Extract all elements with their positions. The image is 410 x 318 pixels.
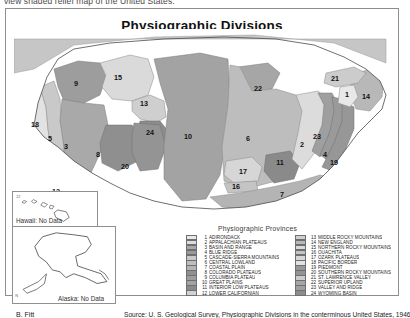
- map-region-number: 15: [114, 73, 122, 82]
- map-region-number: 5: [48, 134, 52, 143]
- map-region-number: 21: [331, 74, 339, 83]
- map-region-number: 16: [232, 182, 240, 191]
- legend-item-label: WYOMING BASIN: [318, 291, 357, 296]
- author-credit: B. Fitt: [16, 311, 34, 318]
- map-region-number: 10: [184, 132, 192, 141]
- region-northern-rockies: [100, 55, 154, 101]
- map-region-number: 4: [323, 150, 327, 159]
- map-region-number: 22: [254, 84, 262, 93]
- inset-alaska-caption: Alaska: No Data: [58, 295, 104, 302]
- map-region-number: 6: [246, 134, 250, 143]
- svg-text:N: N: [15, 293, 18, 298]
- map-region-number: 7: [280, 190, 284, 199]
- legend-columns: 1ADIRONDACK2APPALACHIAN PLATEAUS3BASIN A…: [186, 235, 398, 296]
- alaska-outline: N: [13, 227, 115, 303]
- map-region-number: 17: [239, 167, 247, 176]
- map-region-number: 11: [276, 158, 284, 167]
- map-region-number: 14: [362, 92, 370, 101]
- source-citation: Source: U. S. Geological Survey, Physiog…: [124, 311, 410, 318]
- legend-item-number: 12: [199, 291, 207, 296]
- map-figure: Physiographic Divisions: [5, 8, 399, 296]
- svg-text:22: 22: [16, 195, 20, 199]
- legend-swatch: [295, 290, 306, 296]
- legend-item[interactable]: 24WYOMING BASIN: [295, 291, 398, 296]
- legend-item-number: 24: [308, 291, 316, 296]
- map-region-number: 24: [146, 128, 154, 137]
- map-region-number: 13: [140, 99, 148, 108]
- legend-item[interactable]: 12LOWER CALIFORNIAN: [186, 291, 289, 296]
- inset-alaska[interactable]: N: [12, 226, 116, 304]
- map-region-number: 20: [121, 162, 129, 171]
- map-region-number: 8: [96, 150, 100, 159]
- legend-column-right: 13MIDDLE ROCKY MOUNTAINS14NEW ENGLAND15N…: [295, 235, 398, 296]
- map-region-number: 1: [345, 90, 349, 99]
- legend: Physiographic Provinces 1ADIRONDACK2APPA…: [186, 225, 398, 297]
- legend-column-left: 1ADIRONDACK2APPALACHIAN PLATEAUS3BASIN A…: [186, 235, 289, 296]
- inset-hawaii-caption: Hawaii: No Data: [16, 217, 62, 224]
- map-region-number: 19: [330, 158, 338, 167]
- map-region-number: 2: [300, 140, 304, 149]
- map-region-number: 3: [64, 142, 68, 151]
- legend-swatch: [186, 290, 197, 296]
- map-region-number: 18: [31, 120, 39, 129]
- host-document-line: view shaded relief map of the United Sta…: [4, 0, 400, 6]
- legend-title: Physiographic Provinces: [218, 225, 297, 232]
- map-region-number: 23: [313, 132, 321, 141]
- legend-item-label: LOWER CALIFORNIAN: [209, 291, 259, 296]
- map-region-number: 9: [74, 79, 78, 88]
